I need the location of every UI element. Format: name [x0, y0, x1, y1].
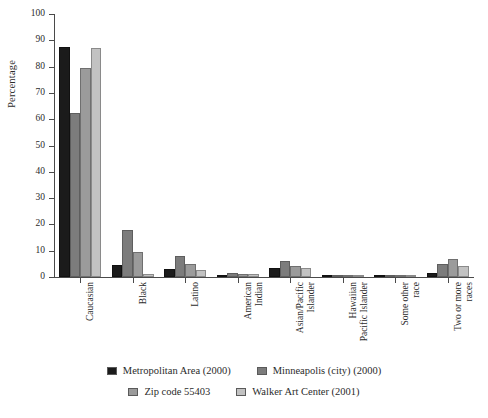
- bar: [374, 275, 385, 277]
- bar-group: [269, 14, 311, 277]
- legend-swatch: [128, 388, 138, 396]
- plot-area: 0102030405060708090100: [54, 14, 474, 278]
- y-axis-title: Percentage: [6, 60, 17, 108]
- y-tick: 30: [49, 198, 54, 199]
- bar: [217, 275, 228, 277]
- bar: [385, 275, 396, 277]
- bar: [143, 274, 154, 277]
- bar-group: [164, 14, 206, 277]
- legend-item: Walker Art Center (2001): [236, 386, 359, 397]
- y-tick-label: 20: [36, 217, 46, 230]
- y-tick-label: 40: [36, 165, 46, 178]
- legend-row-1: Metropolitan Area (2000)Minneapolis (cit…: [0, 360, 488, 381]
- x-axis-labels: CaucasianBlackLatinoAmerican IndianAsian…: [54, 282, 474, 356]
- y-tick: 70: [49, 93, 54, 94]
- y-axis-line: [54, 14, 55, 278]
- bar: [343, 275, 354, 277]
- bar: [122, 230, 133, 277]
- bar-group: [322, 14, 364, 277]
- bar: [448, 259, 459, 277]
- x-axis-line: [54, 277, 474, 278]
- legend-row-2: Zip code 55403Walker Art Center (2001): [0, 381, 488, 402]
- chart-legend: Metropolitan Area (2000)Minneapolis (cit…: [0, 360, 488, 402]
- bar: [322, 275, 333, 277]
- bar: [353, 275, 364, 277]
- bar: [248, 274, 259, 277]
- y-tick-label: 80: [36, 60, 46, 73]
- legend-label: Metropolitan Area (2000): [123, 365, 231, 376]
- bar: [112, 265, 123, 277]
- y-tick: 90: [49, 40, 54, 41]
- bar: [458, 266, 469, 277]
- bar: [133, 252, 144, 277]
- bar: [406, 275, 417, 277]
- bar-group: [59, 14, 101, 277]
- y-tick: 10: [49, 251, 54, 252]
- y-tick-label: 70: [36, 86, 46, 99]
- bar: [238, 274, 249, 277]
- bar: [80, 68, 91, 277]
- legend-label: Zip code 55403: [144, 386, 210, 397]
- y-tick: 50: [49, 146, 54, 147]
- y-tick-label: 90: [36, 33, 46, 46]
- bar: [185, 264, 196, 277]
- bar: [164, 269, 175, 277]
- y-tick: 40: [49, 172, 54, 173]
- bar: [59, 47, 70, 277]
- y-tick-label: 0: [40, 270, 45, 283]
- y-tick-label: 10: [36, 244, 46, 257]
- bar: [301, 268, 312, 277]
- bar-group: [427, 14, 469, 277]
- y-tick-label: 60: [36, 112, 46, 125]
- bar: [280, 261, 291, 277]
- legend-label: Minneapolis (city) (2000): [273, 365, 381, 376]
- y-tick: 100: [49, 14, 54, 15]
- bar: [196, 270, 207, 277]
- legend-label: Walker Art Center (2001): [252, 386, 359, 397]
- y-tick-label: 30: [36, 191, 46, 204]
- legend-swatch: [107, 367, 117, 375]
- y-tick-label: 100: [31, 7, 45, 20]
- bar: [427, 273, 438, 277]
- legend-swatch: [236, 388, 246, 396]
- x-tick-label: Two or more races: [453, 282, 488, 356]
- legend-item: Metropolitan Area (2000): [107, 365, 231, 376]
- bar-group: [374, 14, 416, 277]
- legend-swatch: [257, 367, 267, 375]
- legend-item: Zip code 55403: [128, 386, 210, 397]
- bar-group: [217, 14, 259, 277]
- y-tick: 60: [49, 119, 54, 120]
- bar: [395, 275, 406, 277]
- bar: [91, 48, 102, 277]
- bar: [175, 256, 186, 277]
- y-tick: 20: [49, 224, 54, 225]
- bar: [227, 273, 238, 277]
- bar: [290, 266, 301, 277]
- bar: [332, 275, 343, 277]
- bar: [437, 264, 448, 277]
- legend-item: Minneapolis (city) (2000): [257, 365, 381, 376]
- bar: [269, 268, 280, 277]
- bar-group: [112, 14, 154, 277]
- y-tick: 80: [49, 67, 54, 68]
- y-tick: 0: [49, 277, 54, 278]
- y-tick-label: 50: [36, 139, 46, 152]
- bar: [70, 113, 81, 277]
- bar-chart: Percentage 0102030405060708090100 Caucas…: [0, 0, 488, 418]
